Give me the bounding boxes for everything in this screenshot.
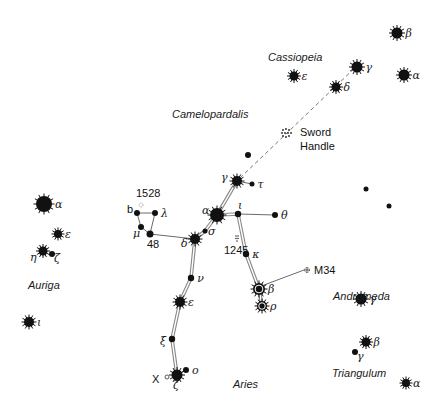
star-per-rho-icon	[255, 299, 270, 314]
star-label-cas-alpha: α	[413, 69, 421, 82]
star-label-per-eps: ε	[188, 296, 194, 309]
star-x-label: X	[152, 373, 160, 385]
star-per-lambda-icon	[152, 210, 158, 216]
andromeda-label: Andromeda	[332, 290, 390, 302]
star-label-cas-beta: β	[405, 27, 412, 40]
camelopardalis-label: Camelopardalis	[172, 108, 249, 120]
m34-cluster-icon	[304, 267, 310, 273]
star-label-per-alpha: α	[202, 204, 210, 217]
star-label-per-theta: θ	[281, 209, 288, 222]
star-per-48-icon	[147, 231, 154, 238]
star-per-theta-icon	[272, 212, 278, 218]
star-cam-dot-icon	[245, 152, 251, 158]
star-label-per-b: b	[127, 203, 133, 215]
ngc1528-cluster-icon	[139, 203, 143, 207]
star-label-per-gamma: γ	[221, 171, 228, 184]
star-x-marker-icon	[165, 375, 169, 379]
star-per-sigma-icon	[203, 229, 208, 234]
star-label-aur-alpha: α	[55, 198, 63, 211]
star-per-eps-icon	[173, 295, 188, 310]
star-label-cas-gamma: γ	[366, 61, 373, 74]
star-label-aur-eta: η	[30, 251, 37, 264]
star-label-aur-zeta: ζ	[54, 252, 61, 265]
star-label-per-iota: ι	[238, 199, 242, 212]
star-label-per-omicron: ο	[192, 364, 199, 377]
star-and-dot1-icon	[364, 187, 369, 192]
cassiopeia-label: Cassiopeia	[268, 51, 322, 63]
star-label-per-zeta: ζ	[173, 379, 180, 392]
star-label-per-sigma: σ	[208, 225, 216, 238]
star-label-per-mu: μ	[133, 227, 140, 240]
triangulum-label: Triangulum	[332, 367, 386, 379]
auriga-label: Auriga	[27, 279, 60, 291]
star-per-xi-icon	[169, 336, 175, 342]
star-per-b-icon	[134, 210, 140, 216]
star-per-beta-icon	[251, 281, 268, 298]
star-label-per-delta: δ	[181, 237, 188, 250]
star-label-cas-delta: δ	[344, 81, 351, 94]
star-label-per-nu: ν	[197, 272, 204, 285]
star-tri-beta-icon	[359, 335, 373, 349]
star-label-per-xi: ξ	[160, 335, 167, 348]
m34-label: M34	[314, 264, 335, 276]
star-aur-iota-icon	[22, 315, 37, 330]
star-label-per-beta: β	[267, 283, 274, 296]
sword-label-line1: Sword	[300, 126, 331, 138]
star-cas-delta-icon	[329, 80, 343, 94]
star-cas-alpha-icon	[396, 67, 412, 83]
star-aur-alpha-icon	[34, 194, 55, 215]
star-per-nu-icon	[188, 275, 194, 281]
star-label-tri-beta: β	[373, 336, 380, 349]
star-label-aur-iota: ι	[37, 316, 41, 329]
star-per-tau-icon	[250, 182, 255, 187]
star-label-per-rho: ρ	[269, 300, 277, 313]
star-cas-beta-icon	[389, 25, 405, 41]
stars-layer: βγαεδγταιθσδκβρνεξζοbλμαεηζιγβγα	[22, 25, 422, 392]
star-label-tri-alpha: α	[413, 377, 421, 390]
star-cas-eps-icon	[287, 69, 301, 83]
ngc1528-label: 1528	[136, 187, 160, 199]
ngc1245-cluster-icon	[235, 235, 239, 242]
star-label-aur-eps: ε	[65, 228, 71, 241]
star-aur-eta-icon	[36, 244, 50, 258]
star-label-per-lambda: λ	[160, 207, 168, 220]
star-chart-perseus: βγαεδγταιθσδκβρνεξζοbλμαεηζιγβγα Sword H…	[0, 0, 441, 413]
star-label-cas-eps: ε	[302, 70, 308, 83]
star-aur-eps-icon	[52, 228, 65, 241]
star-and-dot2-icon	[387, 204, 392, 209]
star-per-omicron-icon	[183, 367, 189, 373]
handle-label-line2: Handle	[300, 140, 335, 152]
star-cas-gamma-icon	[349, 59, 365, 75]
star-label-tri-gamma: γ	[357, 350, 364, 363]
ngc1245-label: 1245	[224, 244, 248, 256]
star-label-per-tau: τ	[258, 178, 265, 191]
pointer-line-to-cassiopeia	[240, 63, 360, 178]
star-tri-alpha-icon	[400, 377, 413, 390]
star-48-label: 48	[147, 238, 159, 250]
star-label-per-kappa: κ	[251, 248, 260, 261]
aries-label: Aries	[232, 378, 259, 390]
